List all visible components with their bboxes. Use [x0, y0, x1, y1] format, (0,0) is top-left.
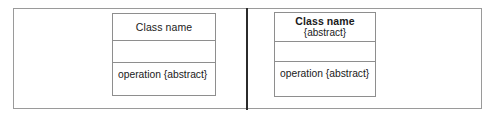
panel-divider	[246, 8, 248, 110]
class-box-plain: Class name operation {abstract}	[112, 13, 216, 96]
operation-label-abstract: operation {abstract}	[275, 62, 369, 80]
class-box-abstract: Class name {abstract} operation {abstrac…	[274, 12, 376, 97]
class-name-label-plain: Class name	[136, 21, 192, 33]
operation-label-plain: operation {abstract}	[113, 63, 207, 81]
name-compartment-plain: Class name	[113, 14, 215, 40]
operation-compartment-plain: operation {abstract}	[113, 62, 215, 95]
class-abstract-keyword-label: {abstract}	[304, 27, 346, 39]
class-name-label-abstract: Class name	[295, 15, 354, 27]
uml-abstract-class-notation-figure: Class name operation {abstract} Class na…	[0, 0, 496, 117]
attribute-compartment-abstract	[275, 41, 375, 61]
attribute-compartment-plain	[113, 40, 215, 62]
name-compartment-abstract: Class name {abstract}	[275, 13, 375, 41]
operation-compartment-abstract: operation {abstract}	[275, 61, 375, 96]
